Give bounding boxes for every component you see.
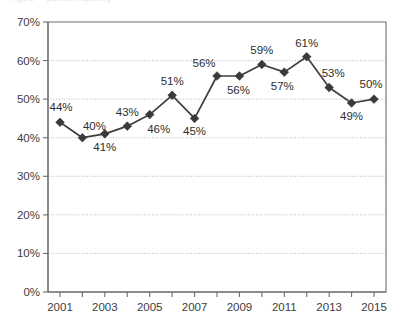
data-point-label: 56% <box>192 57 215 69</box>
x-tick-label: 2003 <box>92 301 118 313</box>
y-tick-label: 30% <box>17 170 40 182</box>
data-point-label: 50% <box>359 78 382 90</box>
data-point-marker <box>213 72 222 81</box>
x-tick-label: 2007 <box>182 301 208 313</box>
data-point-label: 51% <box>161 75 184 87</box>
data-point-label: 56% <box>227 84 250 96</box>
data-point-label: 43% <box>116 106 139 118</box>
y-tick-label: 60% <box>17 55 40 67</box>
x-tick-label: 2009 <box>227 301 253 313</box>
data-point-label: 59% <box>250 44 273 56</box>
data-point-label: 41% <box>93 141 116 153</box>
clipped-header-text: Figure — percent reporting <box>10 0 111 3</box>
y-tick-label: 70% <box>17 16 40 28</box>
data-point-label: 57% <box>271 80 294 92</box>
data-point-marker <box>258 60 267 69</box>
data-point-label: 44% <box>49 101 72 113</box>
y-tick-label: 0% <box>23 286 40 298</box>
plot-area-border <box>48 22 386 292</box>
data-point-label: 49% <box>340 110 363 122</box>
x-tick-label: 2005 <box>137 301 163 313</box>
y-tick-label: 40% <box>17 132 40 144</box>
data-point-label: 40% <box>83 120 106 132</box>
data-point-label: 45% <box>183 125 206 137</box>
y-tick-label: 20% <box>17 209 40 221</box>
y-tick-label: 10% <box>17 247 40 259</box>
data-point-label: 53% <box>322 67 345 79</box>
data-point-label: 46% <box>147 123 170 135</box>
data-point-marker <box>370 95 379 104</box>
data-point-label: 61% <box>295 37 318 49</box>
x-tick-label: 2011 <box>272 301 297 313</box>
data-point-marker <box>235 72 244 81</box>
x-tick-label: 2015 <box>361 301 387 313</box>
y-tick-label: 50% <box>17 93 40 105</box>
x-tick-label: 2013 <box>316 301 342 313</box>
chart-container: Figure — percent reporting 0%10%20%30%40… <box>0 0 402 328</box>
data-point-marker <box>123 122 132 131</box>
x-tick-label: 2001 <box>47 301 73 313</box>
line-chart: 0%10%20%30%40%50%60%70%20012003200520072… <box>0 0 402 328</box>
